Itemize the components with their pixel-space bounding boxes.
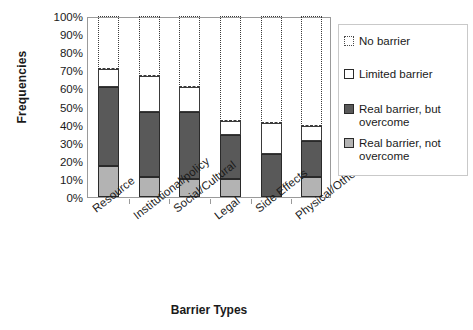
legend-swatch-nobarrier-icon bbox=[344, 36, 354, 46]
legend-item-nobarrier[interactable]: No barrier bbox=[344, 35, 410, 48]
y-tick-label: 80% bbox=[60, 47, 83, 59]
x-category-label: Legal bbox=[212, 194, 242, 221]
legend-swatch-realnot-icon bbox=[344, 138, 354, 148]
bar-segment-limited[interactable] bbox=[98, 69, 119, 87]
legend-label: No barrier bbox=[359, 35, 410, 48]
x-tick-mark bbox=[251, 199, 252, 204]
legend-label: Real barrier, not overcome bbox=[359, 137, 441, 162]
bar-institutional-policy[interactable] bbox=[139, 16, 160, 197]
bar-segment-realbut[interactable] bbox=[98, 87, 119, 167]
x-tick-mark bbox=[291, 199, 292, 204]
bar-segment-realnot[interactable] bbox=[220, 179, 241, 197]
legend-swatch-realbut-icon bbox=[344, 104, 354, 114]
bar-segment-limited[interactable] bbox=[220, 121, 241, 135]
y-tick-label: 30% bbox=[60, 138, 83, 150]
legend-item-realbut[interactable]: Real barrier, but overcome bbox=[344, 103, 441, 128]
bar-segment-nobarrier[interactable] bbox=[261, 16, 282, 123]
y-tick-label: 100% bbox=[54, 11, 83, 23]
y-tick-label: 90% bbox=[60, 29, 83, 41]
bar-segment-nobarrier[interactable] bbox=[179, 16, 200, 87]
plot-area bbox=[87, 17, 331, 198]
legend-item-limited[interactable]: Limited barrier bbox=[344, 68, 433, 81]
x-tick-mark bbox=[210, 199, 211, 204]
bar-segment-limited[interactable] bbox=[301, 126, 322, 140]
bar-segment-nobarrier[interactable] bbox=[139, 16, 160, 76]
y-tick-label: 20% bbox=[60, 156, 83, 168]
bar-resource[interactable] bbox=[98, 16, 119, 197]
bar-segment-nobarrier[interactable] bbox=[98, 16, 119, 68]
x-axis-title: Barrier Types bbox=[87, 303, 331, 317]
bar-segment-nobarrier[interactable] bbox=[301, 16, 322, 126]
y-axis-title: Frequencies bbox=[15, 27, 29, 147]
legend-swatch-limited-icon bbox=[344, 69, 354, 79]
y-tick-label: 10% bbox=[60, 174, 83, 186]
y-tick-label: 0% bbox=[66, 192, 83, 204]
bar-segment-limited[interactable] bbox=[261, 123, 282, 154]
x-tick-mark bbox=[129, 199, 130, 204]
bar-segment-limited[interactable] bbox=[179, 87, 200, 112]
y-axis-tick-labels: 0%10%20%30%40%50%60%70%80%90%100% bbox=[36, 11, 85, 203]
bar-segment-limited[interactable] bbox=[139, 76, 160, 112]
bars-container bbox=[88, 18, 330, 197]
bar-segment-nobarrier[interactable] bbox=[220, 16, 241, 121]
chart-figure: Frequencies 0%10%20%30%40%50%60%70%80%90… bbox=[0, 0, 473, 330]
legend-item-realnot[interactable]: Real barrier, not overcome bbox=[344, 137, 441, 162]
bar-side-effects[interactable] bbox=[261, 16, 282, 197]
chart-legend: No barrierLimited barrierReal barrier, b… bbox=[338, 24, 468, 176]
y-tick-label: 70% bbox=[60, 65, 83, 77]
y-tick-label: 40% bbox=[60, 120, 83, 132]
legend-label: Real barrier, but overcome bbox=[359, 103, 441, 128]
bar-segment-realbut[interactable] bbox=[139, 112, 160, 177]
y-tick-label: 60% bbox=[60, 83, 83, 95]
legend-label: Limited barrier bbox=[359, 68, 433, 81]
x-tick-mark bbox=[169, 199, 170, 204]
y-tick-label: 50% bbox=[60, 102, 83, 114]
